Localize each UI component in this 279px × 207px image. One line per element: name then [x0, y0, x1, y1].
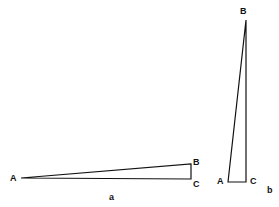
panel-caption-a: a	[109, 192, 115, 202]
triangle-a-shape	[21, 164, 191, 179]
vertex-label-b-B: B	[240, 6, 247, 16]
panel-caption-b: b	[267, 185, 273, 195]
vertex-label-a-C: C	[193, 179, 200, 189]
vertex-label-b-C: C	[250, 176, 257, 186]
diagram-canvas: A B C a B A C b	[0, 0, 279, 207]
vertex-label-b-A: A	[217, 176, 224, 186]
vertex-label-a-A: A	[10, 173, 17, 183]
triangle-b-shape	[228, 20, 246, 182]
triangle-a: A B C a	[10, 157, 200, 202]
triangle-b: B A C b	[217, 6, 273, 195]
vertex-label-a-B: B	[193, 157, 200, 167]
